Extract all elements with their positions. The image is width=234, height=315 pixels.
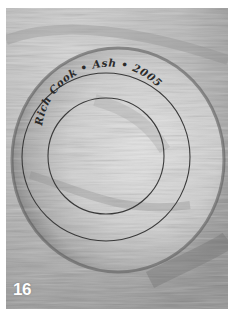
plate-number: 16 (13, 280, 31, 300)
bowl-photo: Rich Cook • Ash • 2005 (6, 8, 228, 309)
bowl-illustration: Rich Cook • Ash • 2005 (6, 8, 228, 309)
